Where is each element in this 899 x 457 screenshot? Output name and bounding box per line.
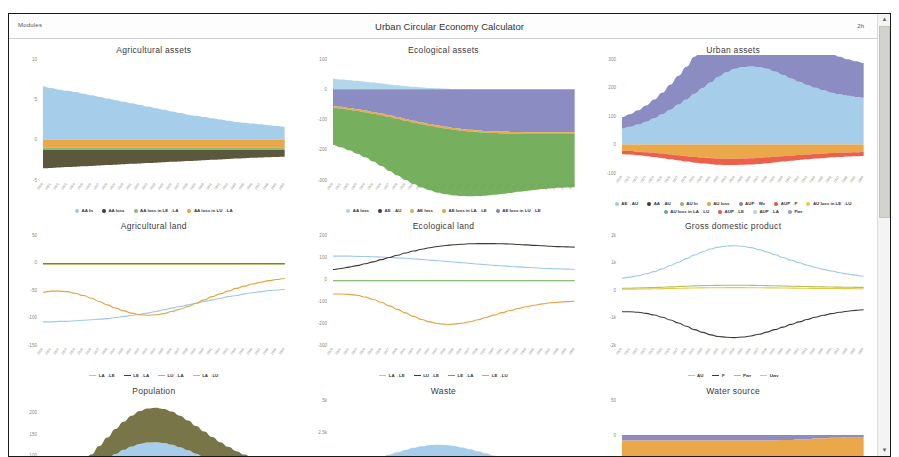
svg-text:2046: 2046 xyxy=(535,347,543,355)
svg-text:-50: -50 xyxy=(30,288,37,293)
svg-text:2029: 2029 xyxy=(398,347,406,355)
svg-text:2038: 2038 xyxy=(181,347,189,355)
legend-label: LU→LA xyxy=(168,373,184,378)
scrollbar-thumb[interactable] xyxy=(879,26,890,218)
plot-area[interactable]: 1050-52020202120222023202420252026202720… xyxy=(9,55,299,206)
legend-item[interactable]: LE→LA xyxy=(124,373,149,378)
svg-text:2032: 2032 xyxy=(712,175,720,183)
legend-item[interactable]: LA→LE xyxy=(379,373,404,378)
legend-item[interactable]: AUP→P xyxy=(774,201,797,206)
svg-text:0: 0 xyxy=(614,288,617,293)
chart-card-water-source[interactable]: Water source500-50 xyxy=(588,381,876,456)
svg-text:2044: 2044 xyxy=(230,182,238,190)
legend-item[interactable]: AE loss in LA→LE xyxy=(442,208,487,213)
svg-text:2026: 2026 xyxy=(374,182,382,190)
legend-item[interactable]: AE→AU xyxy=(378,208,401,213)
legend-item[interactable]: AE loss xyxy=(410,208,433,213)
legend-item[interactable]: AUP→Wv xyxy=(739,201,766,206)
legend-item[interactable]: AA loss in LU→LA xyxy=(187,208,232,213)
svg-text:2021: 2021 xyxy=(44,182,52,190)
legend-swatch-icon xyxy=(806,202,810,206)
chart-card-agricultural-assets[interactable]: Agricultural assets1050-5202020212022202… xyxy=(9,40,299,216)
legend-item[interactable]: Pwr xyxy=(788,209,803,214)
legend-item[interactable]: AA→AU xyxy=(647,201,671,206)
svg-text:2026: 2026 xyxy=(374,347,382,355)
chart-card-gross-domestic-product[interactable]: Gross domestic product2k1k0-1k-2k2020202… xyxy=(588,216,876,381)
legend-label: LE→LA xyxy=(133,373,149,378)
legend-item[interactable]: AUP→LA xyxy=(753,209,779,214)
legend-item[interactable]: AU xyxy=(688,373,704,378)
scroll-up-icon[interactable]: ▲ xyxy=(878,14,891,25)
legend-item[interactable]: AU loss in LE→LU xyxy=(806,201,851,206)
legend-item[interactable]: AU loss xyxy=(707,201,730,206)
svg-text:2041: 2041 xyxy=(205,347,213,355)
svg-text:100: 100 xyxy=(319,255,327,260)
svg-text:2030: 2030 xyxy=(407,347,415,355)
scroll-down-icon[interactable]: ▼ xyxy=(878,445,891,456)
svg-text:2020: 2020 xyxy=(326,182,334,190)
chart-card-population[interactable]: Population20015010050 xyxy=(9,381,299,456)
svg-text:2039: 2039 xyxy=(479,347,487,355)
legend-swatch-icon xyxy=(712,375,719,376)
legend-item[interactable]: LE→LA xyxy=(448,373,473,378)
legend-swatch-icon xyxy=(760,375,767,376)
svg-text:2036: 2036 xyxy=(455,347,463,355)
plot-area[interactable]: 5k2.5k0-2.5k xyxy=(299,396,589,456)
svg-text:2045: 2045 xyxy=(817,175,825,183)
chart-card-ecological-land[interactable]: Ecological land2001000-100-200-300202020… xyxy=(299,216,589,381)
plot-area[interactable]: 2k1k0-1k-2k20202021202220232024202520262… xyxy=(588,231,876,371)
legend-item[interactable]: Uwv xyxy=(760,373,779,378)
plot-area[interactable]: 20015010050 xyxy=(9,396,299,456)
legend-label: AU loss in LA→LU xyxy=(670,209,709,214)
dashboard-grid: Agricultural assets1050-5202020212022202… xyxy=(9,40,876,456)
svg-text:2043: 2043 xyxy=(222,347,230,355)
legend-item[interactable]: AA loss xyxy=(102,208,125,213)
svg-text:2038: 2038 xyxy=(761,175,769,183)
svg-text:2021: 2021 xyxy=(334,347,342,355)
chart-card-waste[interactable]: Waste5k2.5k0-2.5k xyxy=(299,381,589,456)
legend-item[interactable]: LU→LA xyxy=(158,373,184,378)
legend-item[interactable]: AU In xyxy=(680,201,698,206)
plot-area[interactable]: 1000-100-200-300202020212022202320242025… xyxy=(299,55,589,206)
svg-text:2040: 2040 xyxy=(777,175,785,183)
chart-card-ecological-assets[interactable]: Ecological assets1000-100-200-3002020202… xyxy=(299,40,589,216)
plot-area[interactable]: 500-50 xyxy=(588,396,876,456)
legend-item[interactable]: LE→LU xyxy=(482,373,507,378)
time-label[interactable]: 2h xyxy=(857,23,864,29)
svg-text:200: 200 xyxy=(609,85,617,90)
chart-card-urban-assets[interactable]: Urban assets3002001000-10020202021202220… xyxy=(588,40,876,216)
svg-text:50: 50 xyxy=(611,398,617,403)
legend-item[interactable]: AA In xyxy=(75,208,93,213)
svg-text:2020: 2020 xyxy=(36,347,44,355)
plot-area[interactable]: 2001000-100-200-300202020212022202320242… xyxy=(299,231,589,371)
legend-item[interactable]: AA loss xyxy=(346,208,369,213)
chart-legend: AUFPwrUwv xyxy=(588,371,876,378)
page-title: Urban Circular Economy Calculator xyxy=(9,21,890,32)
legend-item[interactable]: AU loss in LA→LU xyxy=(664,209,709,214)
plot-area[interactable]: 3002001000-10020202021202220232024202520… xyxy=(588,55,876,199)
svg-text:2033: 2033 xyxy=(141,182,149,190)
svg-text:2049: 2049 xyxy=(560,347,568,355)
legend-item[interactable]: LA→LE xyxy=(89,373,114,378)
legend-item[interactable]: LU→LE xyxy=(414,373,439,378)
legend-item[interactable]: AUP→LE xyxy=(718,209,744,214)
svg-text:100: 100 xyxy=(609,114,617,119)
legend-item[interactable]: AE loss in LU→LE xyxy=(496,208,541,213)
chart-title: Ecological assets xyxy=(299,40,589,55)
svg-text:0: 0 xyxy=(614,433,617,438)
legend-swatch-icon xyxy=(680,202,684,206)
plot-area[interactable]: 500-50-100-15020202021202220232024202520… xyxy=(9,231,299,371)
svg-text:2049: 2049 xyxy=(849,175,857,183)
legend-item[interactable]: LA→LU xyxy=(193,373,219,378)
svg-text:2034: 2034 xyxy=(728,175,736,183)
chart-card-agricultural-land[interactable]: Agricultural land500-50-100-150202020212… xyxy=(9,216,299,381)
legend-item[interactable]: AE→AU xyxy=(615,201,638,206)
svg-text:2023: 2023 xyxy=(60,347,68,355)
legend-item[interactable]: Pwr xyxy=(734,373,752,378)
svg-text:2025: 2025 xyxy=(656,347,664,355)
svg-text:2034: 2034 xyxy=(149,182,157,190)
legend-item[interactable]: AA loss in LE→LA xyxy=(134,208,179,213)
vertical-scrollbar[interactable]: ▲ ▼ xyxy=(877,14,890,456)
legend-item[interactable]: F xyxy=(712,373,724,378)
svg-text:2030: 2030 xyxy=(696,175,704,183)
